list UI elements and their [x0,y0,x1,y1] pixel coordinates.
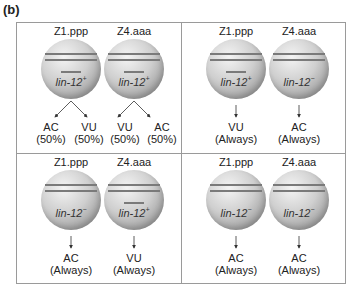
quadrant-both-mutant: Z1.ppp lin-12− Z4.aaa lin-12− AC(Always)… [182,154,346,284]
outcome: AC(Always) [271,252,327,276]
outcome: AC(Always) [43,252,99,276]
outcome: AC(Always) [208,252,264,276]
genotype-grid: Z1.ppp lin-12+ Z4.aaa lin-12+ AC [16,22,346,284]
outcome: AC(Always) [271,121,327,145]
outcome: VU(Always) [208,121,264,145]
quadrant-z1-mutant: Z1.ppp lin-12− Z4.aaa lin-12+ AC(Always)… [17,154,181,284]
outcome: VU(Always) [106,252,162,276]
panel-label: (b) [3,2,20,17]
quadrant-z4-mutant: Z1.ppp lin-12+ Z4.aaa lin-12− VU(Always)… [182,23,346,153]
quadrant-wildtype-both: Z1.ppp lin-12+ Z4.aaa lin-12+ AC [17,23,181,153]
